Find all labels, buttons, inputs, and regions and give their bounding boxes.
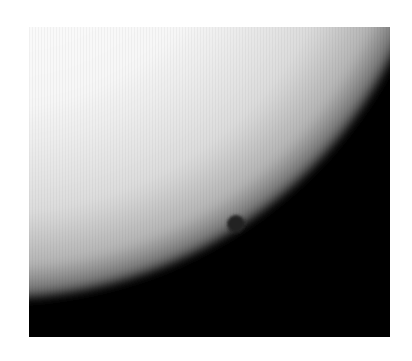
transit-photograph [29,27,390,337]
film-grain-overlay [29,27,390,337]
planet-silhouette [227,215,245,233]
photo-canvas [29,27,390,337]
